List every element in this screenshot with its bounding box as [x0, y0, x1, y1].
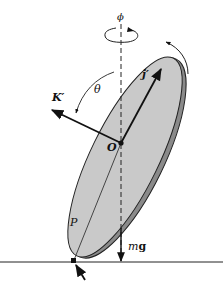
- phi-label: ϕ: [117, 11, 124, 22]
- contact-force-vector: [76, 265, 85, 280]
- origin-label: O: [107, 141, 117, 154]
- weight-g: g: [138, 240, 146, 253]
- disk: [46, 43, 208, 272]
- disk-face: [46, 43, 204, 271]
- j-prime-label: j′: [140, 68, 149, 81]
- weight-label: mg: [128, 240, 146, 253]
- contact-point-label: P: [69, 216, 78, 229]
- k-prime-label: K′: [51, 91, 65, 104]
- theta-label: θ: [94, 83, 101, 96]
- disk-diagram: ϕ j′ K′ θ O P mg FP: [0, 0, 223, 285]
- contact-point: [71, 258, 76, 263]
- weight-m: m: [128, 240, 138, 253]
- origin-point: [118, 140, 123, 145]
